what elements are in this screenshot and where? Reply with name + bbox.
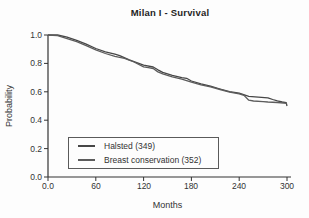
curve-1	[48, 35, 287, 106]
legend-label-breast-conservation: Breast conservation (352)	[104, 155, 201, 165]
y-axis-label: Probability	[4, 46, 16, 166]
legend-item-breast-conservation: Breast conservation (352)	[69, 155, 218, 166]
x-tick-label: 0.0	[34, 181, 62, 191]
survival-curves	[48, 35, 287, 106]
breast-conservation-line-swatch-icon	[78, 159, 95, 161]
x-tick-label: 60	[82, 181, 110, 191]
y-tick-label: 0.6	[16, 87, 42, 97]
curve-2	[48, 35, 287, 103]
y-tick-label: 0.8	[16, 58, 42, 68]
legend-label-halsted: Halsted (349)	[104, 141, 155, 151]
x-axis-label: Months	[48, 200, 287, 210]
y-tick-label: 0.2	[16, 144, 42, 154]
x-tick-label: 300	[273, 181, 301, 191]
x-tick-label: 180	[177, 181, 205, 191]
halsted-line-swatch-icon	[78, 145, 95, 147]
y-tick-label: 1.0	[16, 30, 42, 40]
x-tick-label: 120	[130, 181, 158, 191]
survival-figure: Milan I - Survival Probability Months 1.…	[0, 0, 309, 218]
legend-box: Halsted (349) Breast conservation (352)	[68, 137, 219, 169]
y-tick-label: 0.4	[16, 115, 42, 125]
x-tick-label: 240	[225, 181, 253, 191]
legend-item-halsted: Halsted (349)	[69, 141, 218, 152]
